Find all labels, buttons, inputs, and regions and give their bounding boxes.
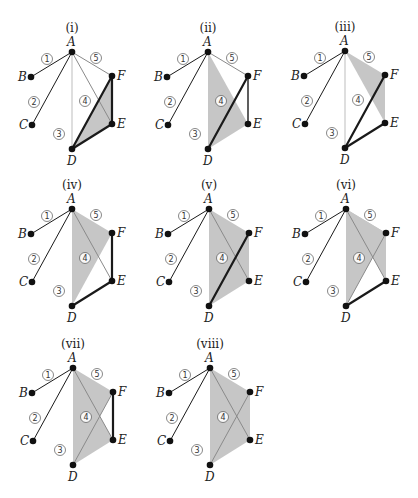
- graph-panel: (ii)12345ABCDEF: [153, 21, 262, 168]
- edge-number: 2: [304, 97, 309, 106]
- edge-number: 1: [44, 55, 49, 64]
- panel-title: (vii): [61, 337, 85, 351]
- vertex-label-D: D: [202, 154, 213, 168]
- vertex-label-C: C: [293, 275, 302, 289]
- panel-title: (v): [201, 178, 217, 192]
- vertex-label-B: B: [18, 386, 28, 400]
- vertex-F: [109, 73, 116, 80]
- panel-title: (i): [65, 21, 78, 35]
- vertex-E: [247, 437, 254, 444]
- vertex-label-E: E: [252, 117, 262, 131]
- edge-number: 5: [93, 54, 98, 63]
- edge-AC: [170, 368, 210, 441]
- vertex-F: [382, 72, 389, 79]
- vertex-label-C: C: [292, 117, 301, 131]
- vertex-label-A: A: [67, 351, 77, 365]
- edge-number: 1: [318, 212, 323, 221]
- vertex-label-C: C: [156, 275, 165, 289]
- vertex-label-D: D: [67, 470, 78, 484]
- edge-AC: [305, 51, 345, 124]
- vertex-label-D: D: [340, 311, 351, 325]
- vertex-label-B: B: [155, 386, 165, 400]
- edge-number: 4: [218, 97, 223, 106]
- shaded-region: [72, 209, 112, 306]
- edge-AC: [33, 368, 73, 441]
- vertex-label-F: F: [389, 68, 399, 82]
- edge-number: 3: [57, 446, 62, 455]
- vertex-label-C: C: [19, 118, 28, 132]
- vertex-B: [302, 231, 309, 238]
- edge-number: 2: [31, 98, 36, 107]
- edge-number: 5: [93, 211, 98, 220]
- vertex-E: [110, 437, 117, 444]
- edge-number: 3: [194, 446, 199, 455]
- vertex-label-F: F: [116, 69, 126, 83]
- edge-number: 5: [367, 211, 372, 220]
- edge-number: 4: [356, 254, 361, 263]
- vertex-label-E: E: [116, 117, 126, 131]
- edge-number: 4: [220, 413, 225, 422]
- vertex-label-F: F: [252, 69, 262, 83]
- vertex-A: [207, 365, 214, 372]
- panel-title: (iv): [62, 178, 82, 192]
- edge-number: 1: [44, 212, 49, 221]
- vertex-C: [165, 122, 172, 129]
- vertex-C: [302, 121, 309, 128]
- vertex-A: [206, 206, 213, 213]
- shaded-region: [209, 209, 249, 306]
- vertex-D: [69, 303, 76, 310]
- edge-number: 1: [317, 54, 322, 63]
- graph-panel: (v)12345ABCDEF: [154, 178, 263, 325]
- vertex-label-F: F: [253, 226, 263, 240]
- vertex-B: [166, 390, 173, 397]
- panel-title: (vi): [336, 178, 356, 192]
- vertex-D: [70, 462, 77, 469]
- vertex-F: [245, 73, 252, 80]
- vertex-label-F: F: [390, 226, 400, 240]
- vertex-F: [109, 230, 116, 237]
- vertex-label-A: A: [203, 192, 213, 206]
- vertex-label-B: B: [153, 70, 163, 84]
- edge-AC: [32, 209, 72, 282]
- edge-number: 5: [366, 53, 371, 62]
- shaded-region: [208, 52, 248, 149]
- vertex-F: [246, 230, 253, 237]
- vertex-label-B: B: [154, 227, 164, 241]
- vertex-C: [166, 279, 173, 286]
- vertex-C: [30, 438, 37, 445]
- vertex-label-F: F: [116, 226, 126, 240]
- vertex-F: [110, 389, 117, 396]
- vertex-label-D: D: [339, 153, 350, 167]
- vertex-label-B: B: [291, 227, 301, 241]
- vertex-label-C: C: [155, 118, 164, 132]
- vertex-A: [343, 206, 350, 213]
- vertex-C: [303, 279, 310, 286]
- panel-title: (ii): [199, 21, 216, 35]
- vertex-E: [109, 278, 116, 285]
- vertex-label-A: A: [340, 192, 350, 206]
- vertex-C: [167, 438, 174, 445]
- edge-AC: [32, 52, 72, 125]
- vertex-label-F: F: [117, 385, 127, 399]
- vertex-label-B: B: [290, 69, 300, 83]
- edge-number: 2: [167, 98, 172, 107]
- vertex-D: [343, 303, 350, 310]
- vertex-label-A: A: [66, 192, 76, 206]
- edge-number: 1: [45, 371, 50, 380]
- vertex-B: [28, 231, 35, 238]
- vertex-E: [245, 121, 252, 128]
- vertex-B: [29, 390, 36, 397]
- vertex-label-E: E: [116, 274, 126, 288]
- vertex-label-B: B: [17, 70, 27, 84]
- edge-number: 5: [230, 211, 235, 220]
- vertex-label-A: A: [204, 351, 214, 365]
- edge-number: 4: [355, 96, 360, 105]
- vertex-E: [109, 121, 116, 128]
- edge-number: 2: [168, 255, 173, 264]
- edge-AC: [168, 52, 208, 125]
- vertex-D: [69, 146, 76, 153]
- vertex-label-E: E: [253, 274, 263, 288]
- edge-number: 2: [31, 255, 36, 264]
- vertex-D: [206, 303, 213, 310]
- edge-number: 3: [192, 130, 197, 139]
